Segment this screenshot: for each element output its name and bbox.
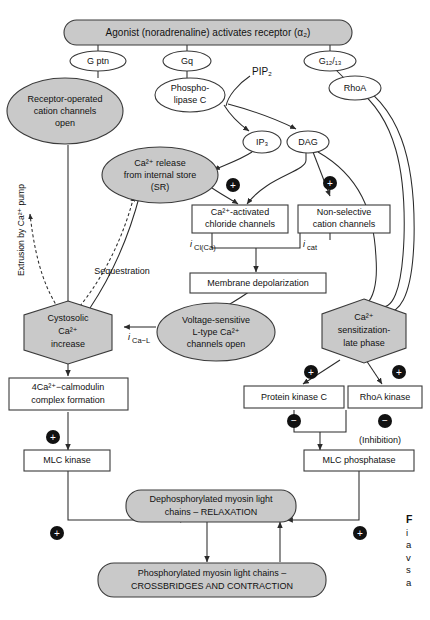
svg-text:−: −	[382, 415, 388, 426]
svg-text:G₁₂/₁₃: G₁₂/₁₃	[319, 56, 342, 66]
svg-text:IP₃: IP₃	[256, 137, 269, 147]
svg-text:Cl(Ca): Cl(Ca)	[194, 243, 216, 252]
svg-text:Phosphorylated myosin light ch: Phosphorylated myosin light chains –	[138, 568, 287, 578]
svg-text:+: +	[308, 367, 314, 378]
svg-text:MLC kinase: MLC kinase	[43, 455, 91, 465]
edge-label-sequestration: Sequestration	[94, 266, 150, 276]
svg-text:Ca²⁺ release: Ca²⁺ release	[134, 158, 185, 168]
badge-plus-cation: +	[323, 176, 337, 190]
svg-text:i: i	[190, 239, 193, 249]
node-ip3: IP₃	[243, 131, 281, 153]
svg-text:Protein kinase C: Protein kinase C	[261, 392, 328, 402]
svg-text:+: +	[54, 528, 60, 539]
svg-text:RhoA: RhoA	[344, 83, 367, 93]
caption-line-2: i	[406, 527, 412, 540]
svg-text:+: +	[357, 528, 363, 539]
node-g1213: G₁₂/₁₃	[304, 51, 356, 71]
node-g-protein: G ptn	[70, 51, 126, 71]
node-relaxation: Dephosphorylated myosin light chains – R…	[126, 490, 296, 522]
caption-line-4: v	[406, 552, 412, 565]
edge-label-extrusion: Extrusion by Ca²⁺ pump	[16, 184, 26, 276]
edge-label-i-cat: i cat	[303, 239, 318, 252]
svg-text:L-type Ca²⁺: L-type Ca²⁺	[193, 327, 240, 337]
node-phospholipase-c: Phospho- lipase C	[155, 78, 225, 112]
svg-text:+: +	[396, 367, 402, 378]
badge-plus-relaxation-left: +	[50, 526, 64, 540]
svg-text:Phospho-: Phospho-	[171, 83, 210, 93]
node-mlc-kinase: MLC kinase	[24, 450, 110, 471]
svg-text:G ptn: G ptn	[87, 56, 109, 66]
badge-plus-pkc: +	[304, 365, 318, 379]
node-ca-release-sr: Ca²⁺ release from internal store (SR)	[102, 147, 218, 203]
svg-text:(Inhibition): (Inhibition)	[359, 435, 401, 445]
svg-text:4Ca²⁺−calmodulin: 4Ca²⁺−calmodulin	[32, 382, 105, 392]
caption-line-6: a	[406, 577, 412, 590]
svg-text:−: −	[291, 415, 297, 426]
svg-text:MLC phosphatase: MLC phosphatase	[322, 455, 395, 465]
badge-plus-chloride: +	[226, 178, 240, 192]
node-calmodulin-complex: 4Ca²⁺−calmodulin complex formation	[9, 378, 128, 410]
caption-line-5: s	[406, 564, 412, 577]
badge-minus-rhoa-kinase: −	[378, 414, 392, 428]
node-protein-kinase-c: Protein kinase C	[244, 386, 344, 408]
svg-text:Sequestration: Sequestration	[94, 266, 150, 276]
figure-caption: F i a v s a	[406, 513, 412, 590]
svg-text:channels open: channels open	[187, 339, 246, 349]
svg-text:PIP₂: PIP₂	[252, 66, 272, 77]
svg-text:Non-selective: Non-selective	[317, 207, 372, 217]
node-cation-channels: Non-selective cation channels	[298, 205, 390, 233]
node-pip2: PIP₂	[252, 66, 272, 77]
svg-text:Dephosphorylated myosin light: Dephosphorylated myosin light	[149, 494, 273, 504]
svg-text:Ca²⁺: Ca²⁺	[58, 326, 78, 336]
svg-text:i: i	[128, 332, 131, 342]
node-ca-sensitization: Ca²⁺ sensitization- late phase	[322, 299, 406, 363]
svg-text:Voltage-sensitive: Voltage-sensitive	[182, 315, 250, 325]
svg-text:Membrane depolarization: Membrane depolarization	[207, 278, 309, 288]
caption-marker: F	[406, 513, 412, 525]
node-contraction: Phosphorylated myosin light chains – CRO…	[98, 563, 326, 597]
svg-text:CROSSBRIDGES AND CONTRACTION: CROSSBRIDGES AND CONTRACTION	[131, 581, 293, 591]
node-agonist: Agonist (noradrenaline) activates recept…	[64, 20, 352, 45]
svg-text:DAG: DAG	[298, 137, 318, 147]
svg-text:cation channels: cation channels	[34, 106, 97, 116]
svg-text:chains – RELAXATION: chains – RELAXATION	[165, 507, 257, 517]
badge-plus-rhoa-kinase: +	[392, 365, 406, 379]
node-rhoa: RhoA	[329, 76, 381, 100]
edge-label-inhibition: (Inhibition)	[359, 435, 401, 445]
svg-text:+: +	[230, 180, 236, 191]
node-gq: Gq	[163, 51, 211, 71]
svg-text:sensitization-: sensitization-	[338, 325, 391, 335]
svg-text:(SR): (SR)	[151, 182, 170, 192]
svg-text:open: open	[55, 118, 75, 128]
svg-text:Gq: Gq	[181, 56, 193, 66]
svg-text:Agonist (noradrenaline) activa: Agonist (noradrenaline) activates recept…	[106, 27, 311, 38]
svg-text:+: +	[50, 432, 56, 443]
node-receptor-operated-channels: Receptor-operated cation channels open	[7, 78, 123, 144]
svg-text:chloride channels: chloride channels	[205, 219, 276, 229]
badge-minus-pkc: −	[287, 414, 301, 428]
svg-text:cat: cat	[307, 243, 318, 252]
svg-text:from internal store: from internal store	[124, 170, 197, 180]
svg-text:RhoA kinase: RhoA kinase	[360, 392, 411, 402]
svg-text:+: +	[327, 178, 333, 189]
svg-text:late phase: late phase	[343, 338, 385, 348]
svg-text:lipase C: lipase C	[174, 95, 207, 105]
caption-line-3: a	[406, 539, 412, 552]
badge-plus-relaxation-right: +	[353, 526, 367, 540]
svg-text:i: i	[303, 239, 306, 249]
svg-text:Ca²⁺: Ca²⁺	[354, 312, 374, 322]
pathway-svg: Agonist (noradrenaline) activates recept…	[0, 0, 430, 620]
node-mlc-phosphatase: MLC phosphatase	[304, 450, 414, 471]
node-chloride-channels: Ca²⁺-activated chloride channels	[192, 205, 288, 233]
node-rhoa-kinase: RhoA kinase	[348, 386, 422, 408]
svg-text:Receptor-operated: Receptor-operated	[27, 94, 102, 104]
node-cytosolic-ca-increase: Cystosolic Ca²⁺ increase	[24, 301, 112, 364]
badge-plus-mlc-kinase: +	[46, 430, 60, 444]
node-dag: DAG	[287, 131, 329, 153]
svg-text:increase: increase	[51, 339, 85, 349]
svg-text:Extrusion by Ca²⁺ pump: Extrusion by Ca²⁺ pump	[16, 184, 26, 276]
svg-text:complex formation: complex formation	[31, 395, 105, 405]
svg-text:Ca−L: Ca−L	[132, 336, 150, 345]
edge-label-i-ca-l: i Ca−L	[128, 332, 150, 345]
node-membrane-depolarization: Membrane depolarization	[190, 273, 326, 293]
